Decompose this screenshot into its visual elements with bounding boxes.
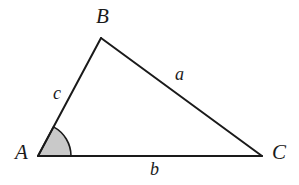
side-a-segment [101, 38, 262, 156]
vertex-label-c: C [272, 142, 286, 163]
angle-marker-A [38, 127, 71, 156]
side-label-b: b [150, 160, 159, 178]
vertex-label-b: B [96, 6, 109, 27]
side-c-segment [38, 38, 101, 156]
side-label-c: c [53, 84, 61, 102]
side-label-a: a [175, 65, 184, 83]
vertex-label-a: A [15, 142, 28, 163]
triangle-diagram-canvas [0, 0, 299, 185]
geometry-figure: A B C a b c [0, 0, 299, 185]
